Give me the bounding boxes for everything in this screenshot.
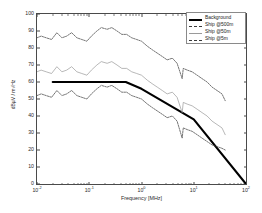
legend-label: Background — [205, 16, 231, 21]
x-axis-tick-label: 10-2 — [32, 187, 41, 193]
y-axis-label: dBµV / m√Hz — [11, 35, 16, 155]
legend-item-1[interactable]: Ship @500m — [189, 22, 243, 29]
y-axis-tick-label: 40 — [28, 113, 34, 118]
x-axis-tick-label: 102 — [242, 187, 250, 193]
chart-figure: 010203040506070809010010-210-1100101102 … — [0, 0, 262, 213]
x-axis-tick-label: 10-1 — [85, 187, 94, 193]
y-axis-tick-label: 100 — [25, 11, 34, 16]
legend-swatch-icon — [189, 29, 202, 36]
y-axis-tick-label: 0 — [31, 181, 34, 186]
x-axis-tick-label: 100 — [138, 187, 146, 193]
y-axis-tick-label: 30 — [28, 130, 34, 135]
y-axis-tick-label: 80 — [28, 45, 34, 50]
legend-item-2[interactable]: Ship @50m — [189, 29, 243, 36]
x-axis-tick-label: 101 — [190, 187, 198, 193]
y-axis-tick-label: 10 — [28, 164, 34, 169]
legend-swatch-icon — [189, 22, 202, 29]
y-axis-tick-label: 50 — [28, 96, 34, 101]
legend-item-3[interactable]: Ship @5m — [189, 36, 243, 43]
legend-label: Ship @50m — [205, 30, 231, 35]
series-line-3 — [37, 85, 225, 150]
y-axis-tick-label: 20 — [28, 147, 34, 152]
y-axis-tick-label: 60 — [28, 79, 34, 84]
legend-label: Ship @500m — [205, 23, 233, 28]
legend-label: Ship @5m — [205, 37, 228, 42]
y-axis-tick-label: 90 — [28, 28, 34, 33]
chart-legend: BackgroundShip @500mShip @50mShip @5m — [186, 12, 246, 44]
legend-item-0[interactable]: Background — [189, 15, 243, 22]
legend-swatch-icon — [189, 36, 202, 43]
legend-swatch-icon — [189, 15, 202, 22]
y-axis-tick-label: 70 — [28, 62, 34, 67]
x-axis-label: Frequency [MHz] — [36, 196, 247, 201]
